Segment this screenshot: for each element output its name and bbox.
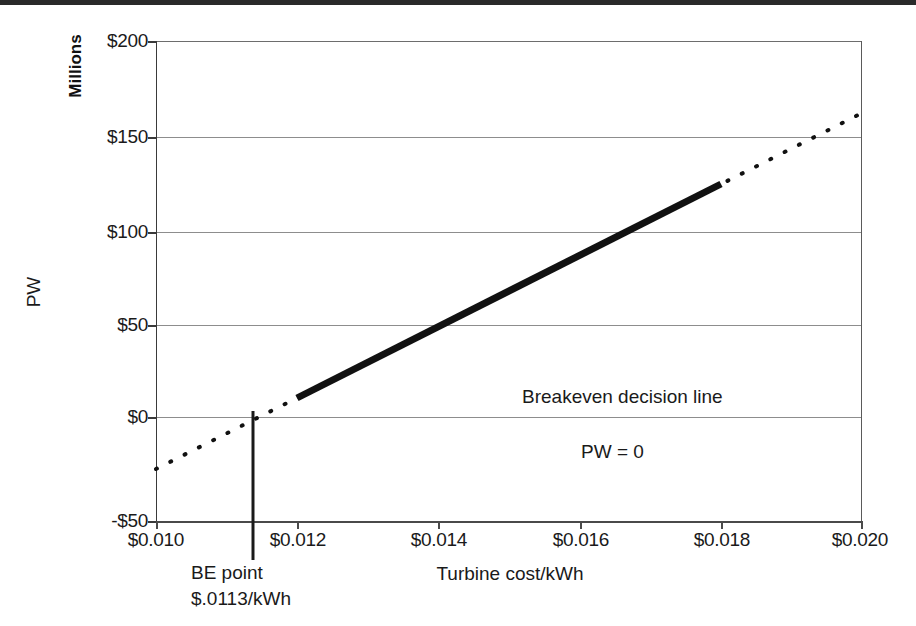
ytick-mark-150 (148, 137, 157, 139)
x-axis-title: Turbine cost/kWh (380, 563, 640, 585)
ytick-150: $150 (0, 127, 148, 147)
xtick-mark-0018 (721, 521, 723, 529)
annotation-pw-equals-zero: PW = 0 (581, 441, 644, 463)
ytick-50: $50 (0, 315, 148, 335)
xtick-label-0018: $0.018 (657, 529, 787, 551)
ytick-mark-50 (148, 325, 157, 327)
xtick-mark-0012 (297, 521, 299, 529)
xtick-mark-0010 (156, 521, 158, 529)
breakeven-point-title: BE point (191, 560, 291, 586)
xtick-mark-0020 (861, 521, 863, 529)
ytick-label-neg50: -$50 (62, 511, 148, 530)
y-axis-title: PW (24, 237, 44, 347)
ytick-mark-0 (148, 417, 157, 419)
ytick-label-50: $50 (62, 315, 148, 334)
xtick-mark-0016 (580, 521, 582, 529)
ytick-label-0: $0 (62, 407, 148, 426)
xtick-label-0020: $0.020 (795, 529, 916, 551)
xtick-label-0012: $0.012 (233, 529, 363, 551)
breakeven-point-value: $.0113/kWh (191, 586, 291, 612)
ytick-0: $0 (0, 407, 148, 427)
y-axis-unit-label: Millions (67, 20, 85, 112)
xtick-mark-0014 (438, 521, 440, 529)
xtick-label-0010: $0.010 (91, 529, 221, 551)
ytick-100: $100 (0, 222, 148, 242)
ytick-neg50: -$50 (0, 511, 148, 531)
ytick-mark-200 (148, 41, 157, 43)
xtick-label-0016: $0.016 (516, 529, 646, 551)
plot-area (156, 41, 862, 521)
ytick-label-150: $150 (62, 127, 148, 146)
ytick-mark-100 (148, 232, 157, 234)
axis-line-x (156, 521, 862, 523)
xtick-label-0014: $0.014 (374, 529, 504, 551)
breakeven-chart: $200 $150 $100 $50 $0 -$50 $0.010 $0.012… (0, 0, 916, 626)
breakeven-point-callout: BE point $.0113/kWh (191, 560, 291, 612)
annotation-breakeven-decision-line: Breakeven decision line (522, 386, 723, 408)
ytick-label-100: $100 (62, 222, 148, 241)
